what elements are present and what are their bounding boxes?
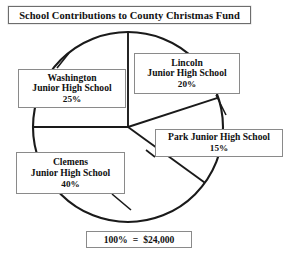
pie-label-washington: Washington Junior High School 25%	[18, 69, 126, 108]
pie-label-clemens-percent: 40%	[61, 179, 79, 189]
pie-label-lincoln: Lincoln Junior High School 20%	[134, 53, 240, 94]
pie-label-park-line1: Park Junior High School	[168, 132, 270, 143]
pie-label-washington-line2: Junior High School	[32, 83, 111, 94]
pie-chart-figure: School Contributions to County Christmas…	[0, 0, 288, 257]
pie-label-lincoln-percent: 20%	[178, 79, 196, 89]
total-equals-sign: =	[133, 234, 138, 245]
pie-label-washington-percent: 25%	[63, 94, 81, 104]
total-amount: $24,000	[143, 234, 174, 245]
pie-label-park-percent: 15%	[210, 143, 228, 153]
pie-label-park: Park Junior High School 15%	[155, 129, 283, 157]
pie-label-clemens: Clemens Junior High School 40%	[16, 152, 125, 194]
pie-label-lincoln-line2: Junior High School	[147, 68, 226, 79]
chart-total-box: 100% = $24,000	[86, 231, 192, 248]
pie-label-clemens-line2: Junior High School	[31, 168, 110, 179]
total-percent: 100%	[104, 234, 128, 245]
